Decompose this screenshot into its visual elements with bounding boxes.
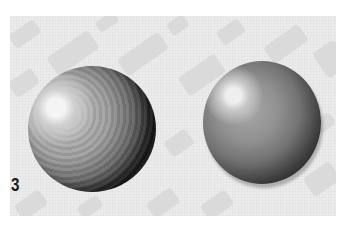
- background-dash: [166, 16, 190, 36]
- background-dash: [95, 16, 120, 33]
- background-dash: [10, 68, 41, 99]
- smooth-sphere: [203, 61, 321, 184]
- background-dash: [146, 187, 181, 216]
- background-dash: [312, 39, 336, 78]
- background-dash: [200, 189, 235, 216]
- background-dash: [163, 128, 195, 158]
- background-dash: [216, 18, 246, 46]
- background-dash: [303, 161, 336, 197]
- background-dash: [263, 24, 309, 64]
- background-dash: [76, 194, 104, 216]
- textured-sphere: [28, 66, 156, 192]
- figure-number: 3: [11, 174, 19, 196]
- background-dash: [10, 19, 42, 49]
- background-dash: [117, 31, 169, 76]
- illustration-panel: [10, 16, 336, 216]
